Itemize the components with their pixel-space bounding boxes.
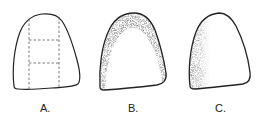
panel-a bbox=[13, 14, 80, 90]
stipple-band-b bbox=[96, 10, 170, 95]
panel-c bbox=[186, 10, 250, 95]
panel-label-b: B. bbox=[128, 102, 138, 114]
tooth-outline-a bbox=[13, 14, 80, 90]
stipple-side-c bbox=[186, 10, 226, 95]
panel-label-a: A. bbox=[40, 102, 50, 114]
panel-label-c: C. bbox=[215, 102, 226, 114]
panel-b bbox=[96, 10, 170, 95]
dashed-grid bbox=[29, 17, 59, 89]
